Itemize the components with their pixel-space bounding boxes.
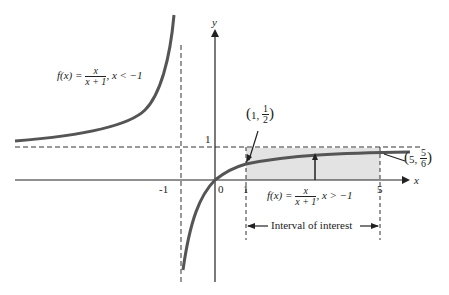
interval-label: Interval of interest (271, 219, 352, 231)
tick-neg1: -1 (159, 183, 168, 195)
point-b-label: (5, 56) (404, 148, 432, 169)
y-axis-arrow-icon (211, 29, 219, 37)
y-tick-1: 1 (205, 133, 211, 145)
tick-5: 5 (377, 183, 383, 195)
interval-left-arrow-icon (247, 223, 255, 229)
graph-canvas (0, 0, 449, 295)
tick-1: 1 (243, 183, 249, 195)
x-axis-arrow-icon (402, 176, 410, 184)
x-axis-label: x (414, 174, 419, 186)
point-a-label: (1, 12) (246, 104, 274, 125)
y-axis-label: y (212, 16, 217, 28)
interval-right-arrow-icon (371, 223, 379, 229)
tick-0: 0 (218, 183, 224, 195)
point-b-pointer (384, 154, 405, 161)
right-branch-label: f(x) = xx + 1, x > −1 (267, 186, 353, 207)
left-branch-label: f(x) = xx + 1, x < −1 (57, 66, 143, 87)
